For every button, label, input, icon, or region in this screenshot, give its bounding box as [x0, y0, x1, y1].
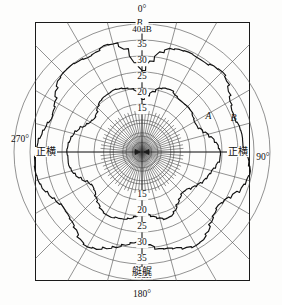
polar-plot-canvas: [0, 0, 282, 305]
polar-chart-figure: 0° 90° 180° 270° Bm 40dB3530252015 15202…: [0, 0, 282, 305]
